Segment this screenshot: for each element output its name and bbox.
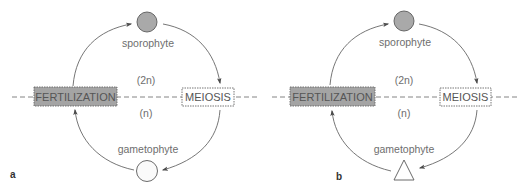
arrow-sporophyte-to-meiosis	[419, 24, 477, 83]
gametophyte-triangle-icon	[394, 160, 414, 180]
gametophyte-circle-icon	[137, 161, 158, 182]
haploid-label: (n)	[398, 107, 411, 119]
sporophyte-circle-icon	[394, 11, 414, 31]
panel-letter-a: a	[10, 169, 16, 180]
meiosis-label: MEIOSIS	[185, 91, 231, 103]
panel-b: sporophyte (2n) (n) FERTILIZATION MEIOSI…	[272, 11, 520, 182]
sporophyte-label: sporophyte	[122, 37, 174, 49]
fertilization-label: FERTILIZATION	[292, 91, 372, 103]
arrow-gametophyte-to-fertilization	[75, 110, 134, 170]
diploid-label: (2n)	[395, 74, 414, 86]
sporophyte-label: sporophyte	[379, 36, 431, 48]
gametophyte-label: gametophyte	[118, 143, 179, 155]
fertilization-label: FERTILIZATION	[35, 91, 115, 103]
panel-a: sporophyte (2n) (n) FERTILIZATION MEIOSI…	[10, 12, 259, 182]
arrow-fertilization-to-sporophyte	[330, 24, 388, 85]
haploid-label: (n)	[140, 107, 153, 119]
diploid-label: (2n)	[137, 74, 156, 86]
life-cycle-diagram: sporophyte (2n) (n) FERTILIZATION MEIOSI…	[0, 0, 522, 195]
arrow-gametophyte-to-fertilization	[332, 111, 391, 171]
arrow-sporophyte-to-meiosis	[163, 24, 220, 83]
meiosis-label: MEIOSIS	[443, 91, 489, 103]
arrow-meiosis-to-gametophyte	[420, 110, 477, 168]
arrow-fertilization-to-sporophyte	[73, 24, 131, 86]
sporophyte-circle-icon	[137, 12, 157, 32]
gametophyte-label: gametophyte	[374, 143, 435, 155]
panel-letter-b: b	[336, 171, 342, 182]
arrow-meiosis-to-gametophyte	[163, 110, 220, 170]
